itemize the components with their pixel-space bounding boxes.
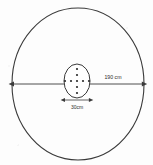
inner-diameter-label: 30cm: [71, 104, 83, 110]
figure-container: 190 cm 30cm: [0, 0, 153, 165]
circle-diagram: 190 cm 30cm: [0, 0, 153, 165]
outer-diameter-label: 190 cm: [104, 74, 121, 80]
